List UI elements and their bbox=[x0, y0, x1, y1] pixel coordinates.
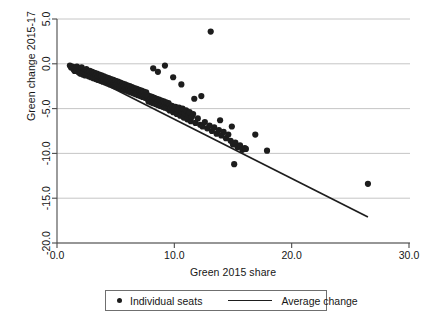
scatter-point bbox=[217, 117, 223, 123]
scatter-point bbox=[252, 131, 258, 137]
y-tick-label: 0.0 bbox=[40, 56, 52, 71]
chart-legend: Individual seats Average change bbox=[105, 290, 327, 311]
scatter-point bbox=[231, 161, 237, 167]
legend-label-points: Individual seats bbox=[130, 295, 202, 307]
y-tick-label: -15.0 bbox=[40, 186, 52, 210]
legend-item-points: Individual seats bbox=[106, 291, 202, 310]
y-tick-label: -10.0 bbox=[40, 141, 52, 165]
x-tick-label: 20.0 bbox=[281, 249, 302, 261]
y-tick-label: -5.0 bbox=[40, 99, 52, 117]
scatter-point bbox=[162, 62, 168, 68]
scatter-point bbox=[264, 148, 270, 154]
solid-line-marker-icon bbox=[228, 300, 272, 301]
x-tick-label: 30.0 bbox=[399, 249, 420, 261]
y-tick-label: 5.0 bbox=[40, 12, 52, 27]
chart-figure: Green change 2015-17 0.010.020.030.0 5.0… bbox=[0, 0, 432, 323]
scatter-point bbox=[195, 115, 201, 121]
scatter-point bbox=[243, 146, 249, 152]
gridlines bbox=[57, 19, 410, 243]
scatter-points bbox=[67, 28, 371, 187]
x-tick-label: 10.0 bbox=[164, 249, 185, 261]
scatter-point bbox=[225, 131, 231, 137]
regression-line bbox=[70, 66, 368, 217]
average-change-line bbox=[70, 66, 368, 217]
scatter-point bbox=[208, 28, 214, 34]
x-axis-label: Green 2015 share bbox=[57, 266, 409, 278]
x-tick-label: 0.0 bbox=[50, 249, 65, 261]
y-tick-label: -20.0 bbox=[40, 231, 52, 255]
legend-label-line: Average change bbox=[281, 295, 357, 307]
scatter-point bbox=[190, 111, 196, 117]
scatter-point bbox=[229, 123, 235, 129]
scatter-point bbox=[191, 96, 197, 102]
scatter-point bbox=[178, 81, 184, 87]
y-tick-labels: 5.00.0-5.0-10.0-15.0-20.0 bbox=[40, 12, 52, 255]
scatter-point bbox=[150, 65, 156, 71]
legend-item-line: Average change bbox=[202, 291, 357, 310]
y-axis bbox=[52, 19, 57, 243]
filled-circle-marker-icon bbox=[117, 298, 122, 303]
scatter-point bbox=[198, 93, 204, 99]
scatter-point bbox=[365, 181, 371, 187]
x-axis bbox=[57, 243, 410, 248]
x-tick-labels: 0.010.020.030.0 bbox=[50, 249, 420, 261]
scatter-point bbox=[170, 74, 176, 80]
